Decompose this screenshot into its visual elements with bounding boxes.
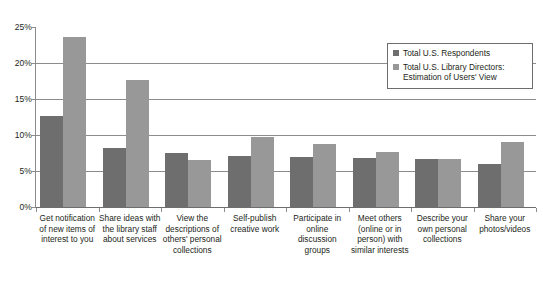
x-axis-tick-mark xyxy=(36,208,37,212)
x-axis-tick-mark xyxy=(224,208,225,212)
bar-group xyxy=(224,27,287,207)
legend-item-label: Total U.S. Library Directors: Estimation… xyxy=(403,62,527,83)
chart-legend: Total U.S. Respondents Total U.S. Librar… xyxy=(387,43,533,89)
bar xyxy=(126,80,149,207)
bar-group xyxy=(161,27,224,207)
legend-swatch-icon xyxy=(393,50,399,56)
y-axis: 0%5%10%15%20%25% xyxy=(0,0,32,290)
y-axis-tick-mark xyxy=(31,27,36,28)
x-axis-tick-mark xyxy=(161,208,162,212)
x-axis-tick-label: View the descriptions of others' persona… xyxy=(161,213,224,255)
bar xyxy=(63,37,86,207)
x-axis-tick-label: Get notification of new items of interes… xyxy=(36,213,99,245)
y-axis-tick-label: 15% xyxy=(0,95,32,104)
legend-item-library-directors: Total U.S. Library Directors: Estimation… xyxy=(393,62,527,83)
x-axis-tick-label: Share your photos/videos xyxy=(474,213,537,234)
bar xyxy=(478,164,501,207)
bar xyxy=(376,152,399,207)
y-axis-tick-label: 10% xyxy=(0,131,32,140)
y-axis-tick-mark xyxy=(31,135,36,136)
x-axis-tick-mark xyxy=(99,208,100,212)
bar xyxy=(415,159,438,207)
legend-item-respondents: Total U.S. Respondents xyxy=(393,48,527,59)
bar-group xyxy=(36,27,99,207)
x-axis-tick-label: Meet others (online or in person) with s… xyxy=(349,213,412,255)
bar-group xyxy=(99,27,162,207)
bar xyxy=(290,157,313,207)
bar xyxy=(438,159,461,207)
y-axis-tick-mark xyxy=(31,171,36,172)
x-axis-tick-mark xyxy=(286,208,287,212)
y-axis-tick-mark xyxy=(31,99,36,100)
bar xyxy=(40,116,63,207)
bar xyxy=(228,156,251,207)
x-axis-tick-mark xyxy=(349,208,350,212)
bar xyxy=(165,153,188,207)
bar xyxy=(251,137,274,207)
y-axis-tick-label: 0% xyxy=(0,203,32,212)
bar xyxy=(188,160,211,207)
bar xyxy=(313,144,336,207)
bar xyxy=(353,158,376,207)
y-axis-tick-mark xyxy=(31,63,36,64)
x-axis-tick-label: Self-publish creative work xyxy=(224,213,287,234)
y-axis-tick-label: 25% xyxy=(0,23,32,32)
x-axis-tick-label: Participate in online discussion groups xyxy=(286,213,349,255)
bar-chart: 0%5%10%15%20%25% Get notification of new… xyxy=(0,0,543,290)
y-axis-tick-label: 5% xyxy=(0,167,32,176)
bar-group xyxy=(286,27,349,207)
x-axis-tick-mark xyxy=(411,208,412,212)
x-axis-tick-mark xyxy=(474,208,475,212)
x-axis-tick-mark xyxy=(536,208,537,212)
x-axis-labels: Get notification of new items of interes… xyxy=(36,213,536,290)
x-axis-tick-label: Describe your own personal collections xyxy=(411,213,474,245)
bar xyxy=(501,142,524,207)
legend-swatch-icon xyxy=(393,64,399,70)
y-axis-tick-label: 20% xyxy=(0,59,32,68)
x-axis-tick-label: Share ideas with the library staff about… xyxy=(99,213,162,245)
legend-item-label: Total U.S. Respondents xyxy=(403,48,490,59)
bar xyxy=(103,148,126,207)
